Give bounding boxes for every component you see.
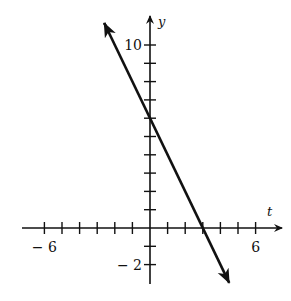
y-tick-label: 10 [124,37,142,53]
data-series [104,23,229,283]
line-start-arrow [104,23,106,28]
tick-labels: − 6610− 2ty [32,14,273,273]
x-axis-label: t [267,204,273,219]
x-tick-label: − 6 [32,239,57,255]
line-series [104,23,229,283]
y-tick-label: − 2 [117,257,142,273]
axes [22,16,282,284]
y-axis-label: y [157,14,166,29]
coordinate-plane: − 6610− 2ty [0,0,291,301]
x-tick-label: 6 [251,239,260,255]
